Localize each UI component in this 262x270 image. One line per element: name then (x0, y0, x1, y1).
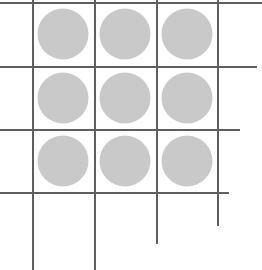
grid-dot-1-3 (162, 9, 213, 60)
grid-dot-3-2 (100, 136, 151, 187)
grid-dot-1-2 (100, 9, 151, 60)
grid-dot-2-1 (38, 73, 89, 124)
grid-dot-2-2 (100, 73, 151, 124)
grid-dot-3-3 (162, 136, 213, 187)
grid-dot-2-3 (162, 73, 213, 124)
grid-dot-3-1 (38, 136, 89, 187)
grid-canvas (0, 0, 262, 270)
grid-dots (38, 9, 213, 187)
dot-grid-diagram (0, 0, 262, 270)
grid-dot-1-1 (38, 9, 89, 60)
